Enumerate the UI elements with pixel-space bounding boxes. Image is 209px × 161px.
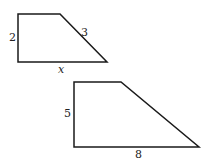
small-slant-label: 3 [81,26,88,39]
small-trapezoid: 2 3 x [9,14,107,76]
large-trapezoid: 5 8 [64,82,199,161]
small-trapezoid-shape [18,14,107,62]
diagram-canvas: 2 3 x 5 8 [0,0,209,161]
large-left-label: 5 [64,107,71,120]
small-bottom-label: x [58,63,65,76]
large-bottom-label: 8 [135,148,142,161]
large-trapezoid-shape [74,82,199,147]
small-left-label: 2 [9,31,16,44]
